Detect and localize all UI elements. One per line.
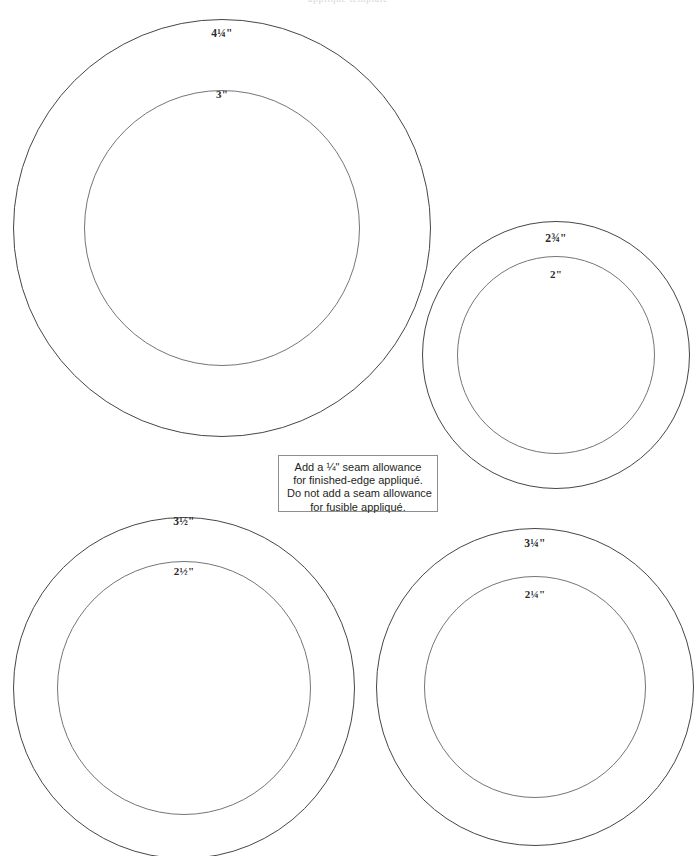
size-label-inner-2-5: 2½"	[174, 566, 194, 577]
inner-circle-2-25[interactable]	[424, 576, 646, 798]
clipped-header-text: appliqué template	[0, 0, 696, 5]
size-label-outer-3-25: 3¼"	[524, 538, 545, 550]
note-line-3: Do not add a seam allowance	[287, 487, 429, 500]
template-sheet: appliqué template 4¼" 3" 2¾" 2" 3½" 2½" …	[0, 0, 696, 856]
seam-allowance-note: Add a ¼" seam allowance for finished-edg…	[278, 455, 438, 512]
size-label-outer-3-5: 3½"	[173, 516, 194, 528]
note-line-4: for fusible appliqué.	[287, 501, 429, 514]
size-label-outer-4-25: 4¼"	[211, 28, 232, 40]
size-label-inner-2-25: 2¼"	[525, 589, 545, 600]
size-label-outer-2-75: 2¾"	[545, 233, 566, 245]
size-label-inner-2: 2"	[550, 269, 562, 280]
inner-circle-2-5[interactable]	[57, 561, 311, 815]
size-label-inner-3: 3"	[216, 89, 228, 100]
inner-circle-2[interactable]	[457, 256, 655, 454]
note-line-1: Add a ¼" seam allowance	[287, 461, 429, 474]
inner-circle-3[interactable]	[84, 90, 360, 366]
note-line-2: for finished-edge appliqué.	[287, 474, 429, 487]
